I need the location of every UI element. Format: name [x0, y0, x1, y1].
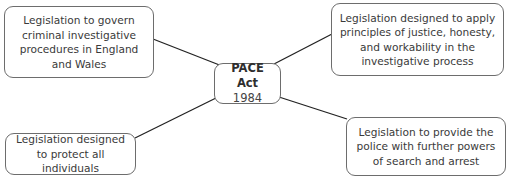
- connector-top-right: [274, 34, 332, 64]
- node-bottom-left: Legislation designed to protect all indi…: [5, 133, 136, 175]
- node-top-right: Legislation designed to apply principles…: [331, 3, 504, 76]
- center-node: PACE Act 1984: [214, 63, 281, 104]
- connector-bottom-right: [279, 97, 347, 119]
- node-top-left-text: Legislation to govern criminal investiga…: [11, 13, 147, 71]
- center-year: 1984: [233, 91, 262, 106]
- node-bottom-left-text: Legislation designed to protect all indi…: [12, 132, 129, 176]
- connector-bottom-left: [135, 98, 216, 138]
- connector-top-left: [153, 39, 222, 66]
- node-top-left: Legislation to govern criminal investiga…: [4, 6, 154, 78]
- node-bottom-right: Legislation to provide the police with f…: [346, 117, 506, 176]
- center-title: PACE Act: [221, 61, 274, 91]
- node-bottom-right-text: Legislation to provide the police with f…: [353, 125, 499, 169]
- node-top-right-text: Legislation designed to apply principles…: [338, 11, 497, 69]
